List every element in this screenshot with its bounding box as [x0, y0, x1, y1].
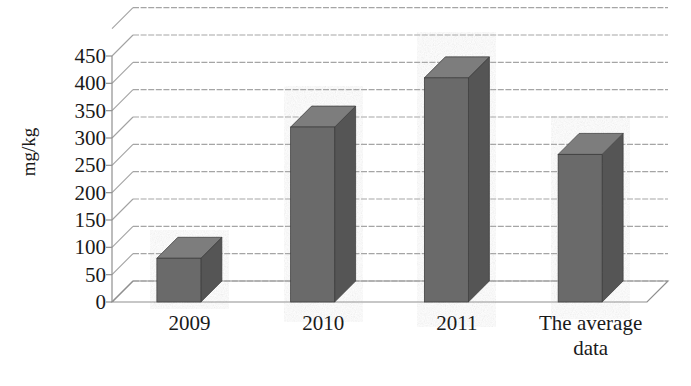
x-axis-category-labels: 200920102011The averagedata	[0, 311, 691, 381]
x-category-label-line1: 2009	[168, 311, 210, 335]
x-category-label-line1: 2011	[436, 311, 477, 335]
x-category-label-line1: 2010	[302, 311, 344, 335]
x-category-label-3: The averagedata	[511, 311, 671, 361]
chart-container: mg/kg 450400350300250200150100500 200920…	[0, 0, 691, 386]
bars	[157, 57, 623, 302]
x-category-label-line2: data	[511, 336, 671, 361]
bar-1	[291, 106, 356, 302]
bar-0	[157, 237, 222, 302]
bar-3	[558, 133, 623, 302]
x-category-label-line1: The average	[539, 311, 642, 335]
bar-2	[424, 57, 489, 302]
